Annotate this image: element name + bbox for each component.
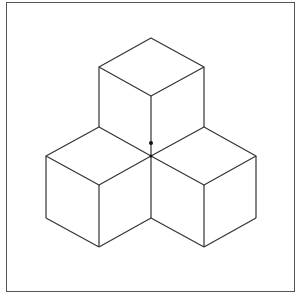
left-cube (46, 127, 151, 247)
top-cube (99, 38, 204, 156)
right-cube (151, 127, 256, 247)
cubes-diagram (0, 0, 303, 300)
center-dot (149, 141, 153, 145)
center-vertex-dot (150, 155, 153, 158)
